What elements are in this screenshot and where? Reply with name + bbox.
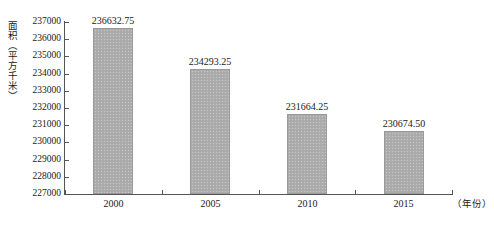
- x-axis-tick: [355, 190, 356, 195]
- bar-value-label-2005: 234293.25: [189, 56, 232, 67]
- y-axis-tick-label: 231000: [17, 120, 61, 130]
- y-axis-label: 面积（平方千米）: [2, 13, 17, 109]
- bar-value-label-2010: 231664.25: [286, 101, 329, 112]
- y-axis-tick: [65, 160, 69, 161]
- y-axis-tick: [65, 91, 69, 92]
- bar-2010: [287, 114, 327, 194]
- x-axis-category-label-2005: 2005: [162, 198, 259, 210]
- bar-chart-figure: 面积（平方千米） 2370002360002350002340002330002…: [0, 0, 494, 225]
- x-axis-category-label-2015: 2015: [355, 198, 452, 210]
- y-axis-tick: [65, 74, 69, 75]
- x-axis-category-label-2010: 2010: [259, 198, 356, 210]
- y-axis-tick: [65, 177, 69, 178]
- y-axis-tick-label: 235000: [17, 51, 61, 61]
- x-axis-label: （年份）: [452, 198, 492, 210]
- bar-2005: [190, 69, 230, 194]
- bar-2015: [384, 131, 424, 194]
- y-axis-tick-labels: 2370002360002350002340002330002320002310…: [16, 0, 61, 225]
- y-axis-tick-label: 227000: [17, 189, 61, 199]
- x-axis-tick: [452, 190, 453, 195]
- bar-value-label-2000: 236632.75: [92, 15, 135, 26]
- y-axis-tick: [65, 39, 69, 40]
- x-axis-tick: [259, 190, 260, 195]
- y-axis-tick: [65, 108, 69, 109]
- y-axis-tick: [65, 125, 69, 126]
- y-axis-tick-label: 234000: [17, 69, 61, 79]
- x-axis-tick: [65, 190, 66, 195]
- bar-value-label-2015: 230674.50: [383, 118, 426, 129]
- y-axis-tick-label: 233000: [17, 86, 61, 96]
- y-axis-tick: [65, 56, 69, 57]
- x-axis-line: [64, 194, 452, 195]
- y-axis-tick-label: 237000: [17, 17, 61, 27]
- bar-2000: [93, 28, 133, 194]
- y-axis-tick: [65, 22, 69, 23]
- y-axis-tick-label: 229000: [17, 155, 61, 165]
- x-axis-category-label-2000: 2000: [65, 198, 162, 210]
- x-axis-tick: [162, 190, 163, 195]
- y-axis-tick-label: 232000: [17, 103, 61, 113]
- y-axis-tick: [65, 142, 69, 143]
- y-axis-tick-label: 236000: [17, 34, 61, 44]
- y-axis-tick-label: 230000: [17, 137, 61, 147]
- y-axis-tick-label: 228000: [17, 172, 61, 182]
